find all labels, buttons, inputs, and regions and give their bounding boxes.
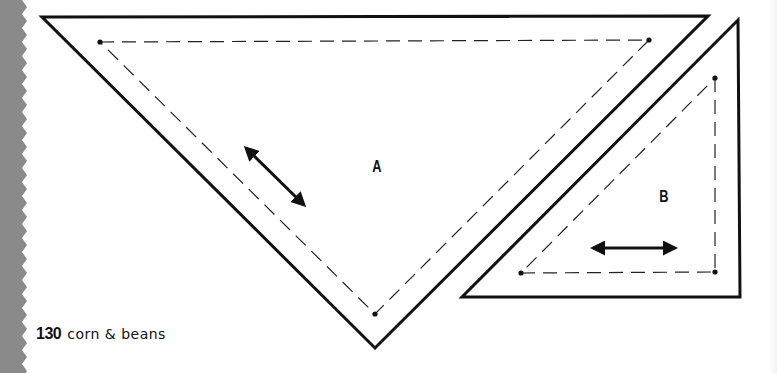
- template-b-cut-line: [462, 20, 740, 297]
- seam-corner-dot: [372, 311, 377, 316]
- seam-corner-dot: [518, 270, 523, 275]
- book-title: corn & beans: [67, 326, 166, 342]
- quilt-template-sheet: [0, 0, 777, 373]
- page-footer: 130 corn & beans: [36, 325, 166, 343]
- seam-corner-dot: [712, 269, 717, 274]
- template-a-seam-corner-dots: [97, 37, 651, 316]
- seam-corner-dot: [712, 75, 717, 80]
- template-a-label: A: [372, 158, 381, 176]
- template-a-grain-arrow-icon: [246, 148, 304, 205]
- seam-corner-dot: [646, 37, 651, 42]
- seam-corner-dot: [97, 39, 102, 44]
- page-number: 130: [36, 325, 61, 343]
- template-b: [462, 20, 740, 297]
- template-b-label: B: [659, 188, 668, 206]
